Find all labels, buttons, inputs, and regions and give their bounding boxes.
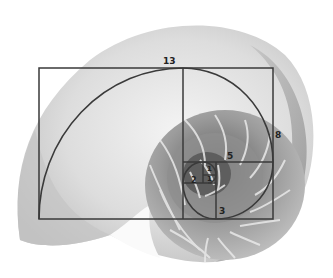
label-3: 3	[219, 206, 225, 216]
golden-spiral-diagram: 13 8 5 3 2 1 1	[0, 0, 333, 278]
label-5: 5	[227, 151, 233, 161]
label-8: 8	[275, 130, 281, 140]
label-1-bottom: 1	[207, 175, 212, 183]
label-2: 2	[191, 176, 197, 185]
label-1-top: 1	[207, 165, 212, 173]
label-13: 13	[163, 56, 176, 66]
